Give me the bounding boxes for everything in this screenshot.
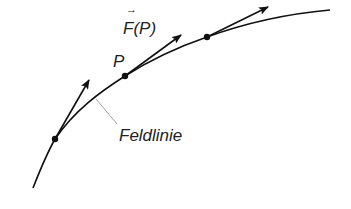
- field-point-p: [122, 73, 128, 79]
- field-point-1: [52, 136, 58, 142]
- force-vector-arrow-1: [55, 80, 89, 139]
- field-line-label: Feldlinie: [119, 126, 182, 145]
- label-leader-line: [96, 99, 117, 124]
- field-point-3: [204, 34, 210, 40]
- diagram-svg: P → F(P) Feldlinie: [0, 0, 351, 209]
- field-line-diagram: P → F(P) Feldlinie: [0, 0, 351, 209]
- force-label: F(P): [123, 19, 156, 38]
- point-label-p: P: [113, 52, 125, 71]
- force-vector-arrow-2: [125, 35, 181, 76]
- force-vector-arrow-symbol: →: [126, 3, 137, 15]
